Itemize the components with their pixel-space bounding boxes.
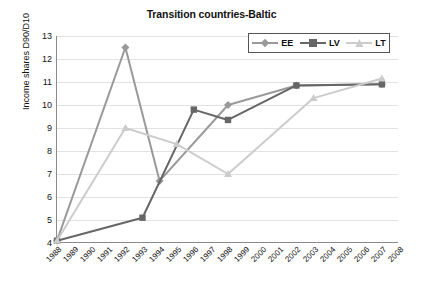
- chart-legend: EELVLT: [248, 33, 390, 53]
- x-tick-label: 1991: [96, 245, 115, 264]
- y-tick-label: 6: [47, 192, 52, 202]
- legend-diamond-icon: [252, 37, 278, 49]
- x-tick-label: 1989: [62, 245, 81, 264]
- legend-label: LV: [329, 38, 340, 48]
- series-EE: [53, 44, 386, 245]
- y-tick-label: 5: [47, 215, 52, 225]
- x-tick-label: 1990: [79, 245, 98, 264]
- x-tick-label: 2007: [369, 245, 388, 264]
- x-tick-label: 2001: [267, 245, 286, 264]
- y-axis-title: Income shares D90/D10: [21, 0, 31, 110]
- x-tick-label: 1994: [147, 245, 166, 264]
- x-tick-label: 1996: [181, 245, 200, 264]
- legend-triangle-icon: [346, 37, 372, 49]
- x-tick-label: 2000: [250, 245, 269, 264]
- legend-entry-LV[interactable]: LV: [300, 37, 340, 49]
- series-line: [57, 48, 382, 241]
- x-tick-label: 1992: [113, 245, 132, 264]
- data-point-marker: [139, 215, 145, 221]
- x-tick-label: 1997: [198, 245, 217, 264]
- data-point-marker: [191, 106, 197, 112]
- y-tick-label: 8: [47, 146, 52, 156]
- x-tick-label: 1999: [233, 245, 252, 264]
- series-layer: [57, 36, 399, 243]
- x-tick-label: 1998: [215, 245, 234, 264]
- series-LT: [53, 75, 386, 244]
- legend-label: EE: [281, 38, 293, 48]
- legend-square-icon: [300, 37, 326, 49]
- x-tick-label: 2008: [386, 245, 405, 264]
- x-tick-label: 2003: [301, 245, 320, 264]
- x-tick-label: 2002: [284, 245, 303, 264]
- data-point-marker: [379, 81, 385, 87]
- data-point-marker: [378, 75, 386, 82]
- plot-area: Income shares D90/D10 45678910111213 198…: [56, 36, 398, 243]
- y-tick-label: 13: [42, 31, 52, 41]
- chart-container: Transition countries-Baltic Income share…: [0, 0, 423, 288]
- data-point-marker: [121, 124, 129, 131]
- x-tick-label: 2004: [318, 245, 337, 264]
- data-point-marker: [121, 44, 129, 52]
- legend-entry-EE[interactable]: EE: [252, 37, 293, 49]
- data-point-marker: [293, 82, 299, 88]
- y-tick-label: 12: [42, 54, 52, 64]
- y-tick-label: 4: [47, 238, 52, 248]
- x-tick-label: 2006: [352, 245, 371, 264]
- y-tick-label: 9: [47, 123, 52, 133]
- x-tick-label: 2005: [335, 245, 354, 264]
- chart-title: Transition countries-Baltic: [0, 8, 423, 20]
- y-tick-label: 10: [42, 100, 52, 110]
- legend-entry-LT[interactable]: LT: [346, 37, 385, 49]
- x-tick-label: 1993: [130, 245, 149, 264]
- x-tick-label: 1995: [164, 245, 183, 264]
- legend-label: LT: [375, 38, 385, 48]
- series-line: [57, 84, 382, 240]
- y-tick-label: 11: [43, 77, 52, 87]
- y-tick-label: 7: [47, 169, 52, 179]
- data-point-marker: [225, 117, 231, 123]
